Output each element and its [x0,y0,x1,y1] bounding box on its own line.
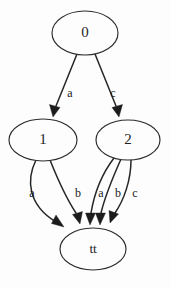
edge-label-1-to-tt-b: b [75,186,81,200]
edge-0-to-1 [50,54,78,117]
arrow-head-1-to-tt-a [52,215,65,227]
node-1-label: 1 [39,131,47,147]
diagram-canvas: 0 1 2 tt a c a b a b c [0,0,171,288]
arrow-head-0-to-2 [112,105,123,118]
node-1[interactable]: 1 [9,119,77,161]
edge-label-0-to-2: c [110,86,115,100]
arrow-head-0-to-1 [50,105,61,118]
edge-0-to-2 [95,54,123,117]
node-0-label: 0 [81,24,89,40]
node-2-label: 2 [124,131,132,147]
arrow-head-2-to-tt-b [96,213,106,225]
edge-label-2-to-tt-b: b [115,186,121,200]
node-0[interactable]: 0 [52,11,118,55]
edge-1-to-tt-b-path [50,160,76,213]
arrow-head-2-to-tt-c [109,211,119,224]
node-2[interactable]: 2 [96,120,160,160]
arrow-head-2-to-tt-a [86,213,96,225]
node-tt-label: tt [90,241,97,256]
edge-label-2-to-tt-c: c [132,186,137,200]
state-transition-diagram: 0 1 2 tt a c a b a b c [0,0,171,288]
edge-label-2-to-tt-a: a [98,186,104,200]
edge-label-1-to-tt-a: a [29,186,35,200]
edge-label-0-to-1: a [67,86,73,100]
node-tt[interactable]: tt [60,228,126,270]
edge-1-to-tt-a [31,160,64,227]
arrow-head-1-to-tt-b [73,212,83,225]
